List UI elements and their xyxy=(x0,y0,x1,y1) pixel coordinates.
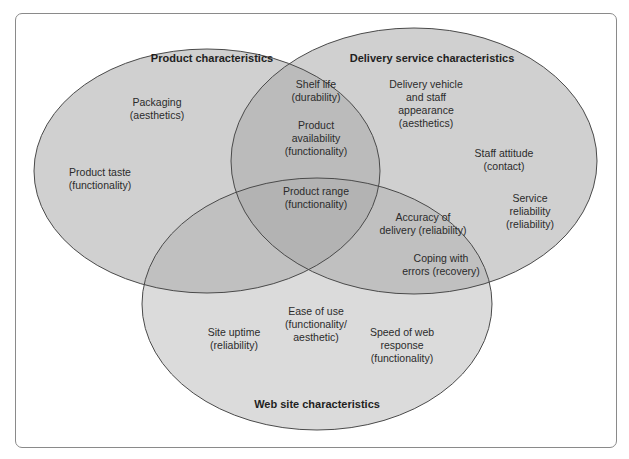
item-product-range: Product range (functionality) xyxy=(283,185,349,211)
item-product-taste: Product taste (functionality) xyxy=(69,166,131,192)
item-speed-of-web-response: Speed of web response (functionality) xyxy=(370,326,434,365)
website-set-title: Web site characteristics xyxy=(254,398,380,410)
item-service-reliability: Service reliability (reliability) xyxy=(506,192,554,231)
item-staff-attitude: Staff attitude (contact) xyxy=(475,147,534,173)
item-product-availability: Product availability (functionality) xyxy=(285,119,347,158)
item-shelf-life: Shelf life (durability) xyxy=(291,78,340,104)
product-set-title: Product characteristics xyxy=(151,52,273,64)
delivery-set-title: Delivery service characteristics xyxy=(350,52,515,64)
item-ease-of-use: Ease of use (functionality/ aesthetic) xyxy=(285,305,347,344)
item-coping-with-errors: Coping with errors (recovery) xyxy=(402,252,480,278)
item-delivery-vehicle-appearance: Delivery vehicle and staff appearance (a… xyxy=(389,78,463,130)
item-site-uptime: Site uptime (reliability) xyxy=(208,326,261,352)
item-accuracy-of-delivery: Accuracy of delivery (reliability) xyxy=(380,211,467,237)
item-packaging: Packaging (aesthetics) xyxy=(130,96,184,122)
